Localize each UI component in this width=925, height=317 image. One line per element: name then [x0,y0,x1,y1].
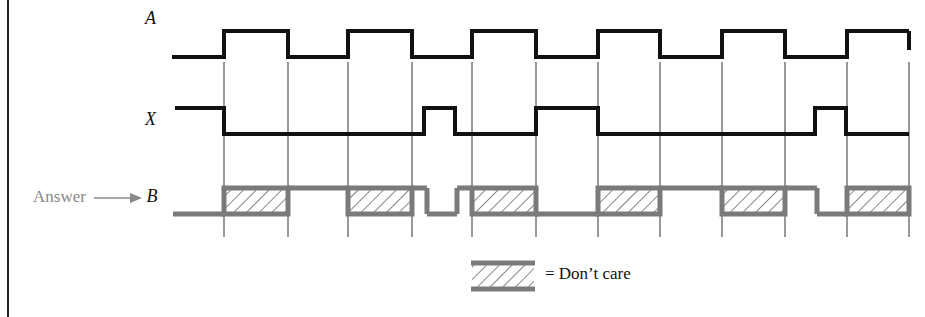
waveform-x [175,108,909,134]
legend-dont-care-symbol [471,263,535,289]
waveform-b-answer [173,188,909,214]
gridlines [224,62,909,237]
timing-diagram [0,0,925,317]
legend-dont-care-text: = Don’t care [545,264,631,284]
waveform-a [172,31,909,57]
